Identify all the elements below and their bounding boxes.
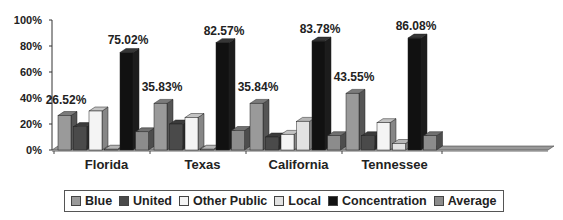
bar-average	[136, 128, 155, 150]
legend-swatch	[274, 196, 284, 206]
data-label-concentration: 86.08%	[396, 19, 437, 33]
legend-item-concentration: Concentration	[328, 194, 427, 208]
data-label-blue: 35.83%	[142, 80, 183, 94]
legend-swatch	[179, 196, 189, 206]
legend-swatch	[119, 196, 129, 206]
bar-other-public	[185, 114, 204, 151]
legend-swatch	[434, 196, 444, 206]
legend-label: Average	[448, 194, 497, 208]
y-tick-label: 0%	[26, 144, 42, 156]
y-tick-label: 60%	[20, 66, 42, 78]
legend-item-united: United	[119, 194, 172, 208]
data-label-concentration: 83.78%	[300, 22, 341, 36]
legend-swatch	[328, 196, 338, 206]
legend-item-local: Local	[274, 194, 321, 208]
category-group-tennessee: 43.55%86.08%Tennessee	[334, 19, 443, 172]
bar-average	[328, 132, 347, 150]
chart-legend: BlueUnitedOther PublicLocalConcentration…	[64, 190, 504, 212]
y-tick-label: 80%	[20, 40, 42, 52]
bar-concentration	[312, 37, 331, 150]
data-label-concentration: 75.02%	[108, 33, 149, 47]
y-tick-label: 100%	[14, 14, 42, 26]
x-category-label: Florida	[85, 157, 129, 172]
legend-label: Local	[288, 194, 321, 208]
bar-average	[232, 127, 251, 151]
legend-swatch	[71, 196, 81, 206]
x-category-label: California	[269, 157, 330, 172]
y-tick-label: 20%	[20, 118, 42, 130]
bar-other-public	[89, 107, 108, 150]
x-category-label: Tennessee	[361, 157, 427, 172]
category-group-california: 35.84%83.78%California	[238, 22, 347, 172]
bar-average	[424, 132, 443, 150]
data-label-blue: 43.55%	[334, 70, 375, 84]
x-category-label: Texas	[185, 157, 221, 172]
data-label-blue: 35.84%	[238, 80, 279, 94]
y-tick-label: 40%	[20, 92, 42, 104]
legend-item-blue: Blue	[71, 194, 112, 208]
legend-item-other-public: Other Public	[179, 194, 267, 208]
legend-label: Blue	[85, 194, 112, 208]
bar-chart: 0%20%40%60%80%100%26.52%75.02%Florida35.…	[0, 0, 563, 220]
bar-concentration	[408, 34, 427, 150]
data-label-blue: 26.52%	[46, 93, 87, 107]
data-label-concentration: 82.57%	[204, 24, 245, 38]
legend-item-average: Average	[434, 194, 497, 208]
legend-label: Concentration	[342, 194, 427, 208]
category-group-texas: 35.83%82.57%Texas	[142, 24, 251, 172]
legend-label: Other Public	[193, 194, 267, 208]
legend-label: United	[133, 194, 172, 208]
